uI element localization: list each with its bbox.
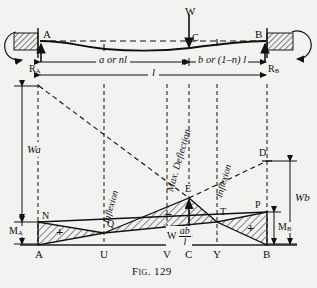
label-beam-c: C	[192, 33, 199, 43]
reaction-a-letter: R	[29, 63, 36, 74]
reaction-b-letter: R	[268, 63, 275, 74]
label-reaction-a: RA	[29, 64, 40, 75]
station-label-Y: Y	[213, 249, 221, 260]
mb-sub: B	[287, 225, 291, 232]
label-moment-a: MA	[8, 226, 24, 237]
label-wa: Wa	[26, 142, 42, 157]
label-point-t: T	[220, 207, 226, 217]
ma-sub: A	[18, 229, 23, 236]
label-dim-l: l	[148, 67, 159, 78]
bm-area-left-positive	[38, 222, 104, 245]
wab-prefix: W	[167, 230, 176, 241]
mb-letter: M	[278, 221, 287, 232]
wab-denominator: l	[179, 237, 191, 247]
right-fixed-support	[267, 28, 311, 59]
station-label-B: B	[263, 249, 270, 260]
label-beam-b: B	[255, 29, 262, 40]
free-moment-construction	[39, 86, 267, 198]
deflected-beam-curve	[40, 41, 266, 51]
label-free-moment-wab-l: W ab l	[166, 226, 192, 247]
label-sign-minus-middle: –	[165, 206, 172, 219]
left-fixed-support	[5, 28, 38, 60]
station-label-A: A	[35, 249, 43, 260]
label-sign-plus-left: +	[56, 225, 63, 238]
label-load-w: W	[185, 6, 195, 17]
label-point-q: Q	[107, 219, 114, 229]
reaction-b-sub: B	[275, 67, 279, 74]
wab-fraction: ab l	[179, 226, 191, 247]
label-reaction-b: RB	[268, 64, 279, 75]
label-beam-a: A	[43, 29, 51, 40]
label-wb: Wb	[294, 190, 311, 205]
reaction-a-sub: A	[36, 67, 41, 74]
figure-129-drawing	[0, 0, 317, 288]
label-dim-b: b or (1–n) l	[196, 55, 248, 66]
ma-letter: M	[9, 225, 18, 236]
label-sign-plus-right: +	[247, 221, 254, 234]
station-label-V: V	[163, 249, 171, 260]
label-moment-b: MB	[277, 222, 292, 233]
label-point-d: D	[259, 148, 266, 158]
label-dim-a: a or nl	[96, 55, 130, 66]
label-point-e: E	[184, 184, 192, 194]
label-point-p: P	[255, 200, 261, 210]
station-label-C: C	[185, 249, 192, 260]
label-point-n: N	[42, 211, 49, 221]
wa-text: Wa	[27, 143, 41, 155]
wb-text: Wb	[295, 191, 310, 203]
figure-caption: Fig. 129	[132, 266, 172, 277]
station-label-U: U	[100, 249, 108, 260]
